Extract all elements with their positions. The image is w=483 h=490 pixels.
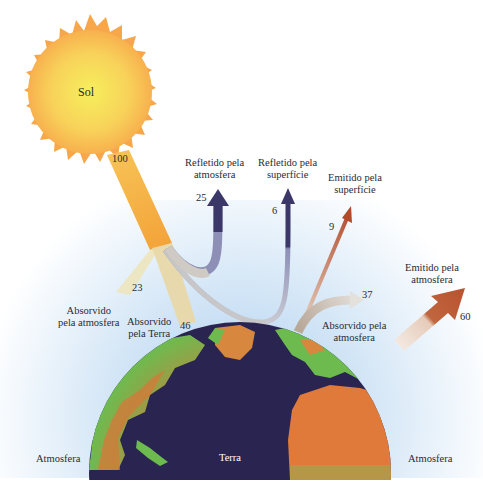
diagram-graphics xyxy=(0,0,483,490)
emitted-atmosphere-label: Emitido pela atmosfera xyxy=(405,262,459,286)
absorbed-atmosphere-solar-label: Absorvido pela atmosfera xyxy=(58,305,120,329)
sun-label: Sol xyxy=(78,86,94,98)
emitted-atmosphere-value: 60 xyxy=(460,311,471,322)
emitted-surface-value: 9 xyxy=(329,221,334,232)
reflected-atmosphere-label: Refletido pela atmosfera xyxy=(185,157,244,181)
emitted-surface-label: Emitido pela superfície xyxy=(328,172,382,196)
absorbed-earth-label: Absorvido pela Terra xyxy=(127,316,171,340)
atmosphere-right-label: Atmosfera xyxy=(408,453,452,465)
reflected-surface-label: Refletido pela superfície xyxy=(258,157,317,181)
reflected-surface-value: 6 xyxy=(272,205,277,216)
absorbed-earth-value: 46 xyxy=(180,320,191,331)
absorbed-atmosphere-surface-label: Absorvido pela atmosfera xyxy=(322,320,386,344)
absorbed-atmosphere-surface-value: 37 xyxy=(362,289,373,300)
earth-label: Terra xyxy=(219,452,241,464)
absorbed-atmosphere-solar-value: 23 xyxy=(132,282,143,293)
sun-value: 100 xyxy=(112,153,128,164)
reflected-atmosphere-value: 25 xyxy=(196,192,207,203)
energy-balance-diagram: Sol 100 Refletido pela atmosfera 25 Refl… xyxy=(0,0,483,490)
atmosphere-left-label: Atmosfera xyxy=(36,453,80,465)
reflected-atmosphere-arrow xyxy=(207,189,229,206)
